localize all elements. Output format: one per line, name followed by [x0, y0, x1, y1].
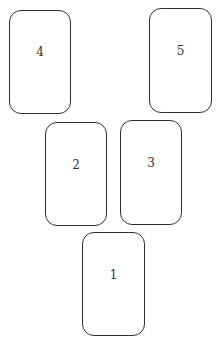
card-spread: 1 2 3 4 5: [0, 0, 219, 344]
card-position-4: 4: [9, 10, 71, 114]
card-number-label: 4: [10, 46, 70, 58]
card-number-label: 2: [46, 159, 106, 171]
card-number-label: 5: [150, 45, 211, 57]
card-position-2: 2: [45, 122, 107, 226]
card-number-label: 3: [121, 157, 181, 169]
card-position-1: 1: [82, 232, 145, 336]
card-position-5: 5: [149, 8, 212, 113]
card-number-label: 1: [83, 269, 144, 281]
card-position-3: 3: [120, 120, 182, 225]
